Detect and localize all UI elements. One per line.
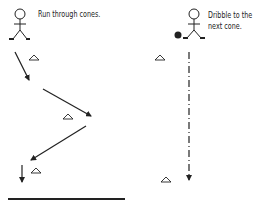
drill-diagram xyxy=(0,0,255,206)
player-icon-right xyxy=(183,9,205,38)
player-icon-left xyxy=(9,9,30,39)
run-path-arrows xyxy=(15,52,91,182)
cone-icon xyxy=(155,55,171,182)
ball-icon xyxy=(175,32,182,39)
cone-icon xyxy=(29,55,73,173)
